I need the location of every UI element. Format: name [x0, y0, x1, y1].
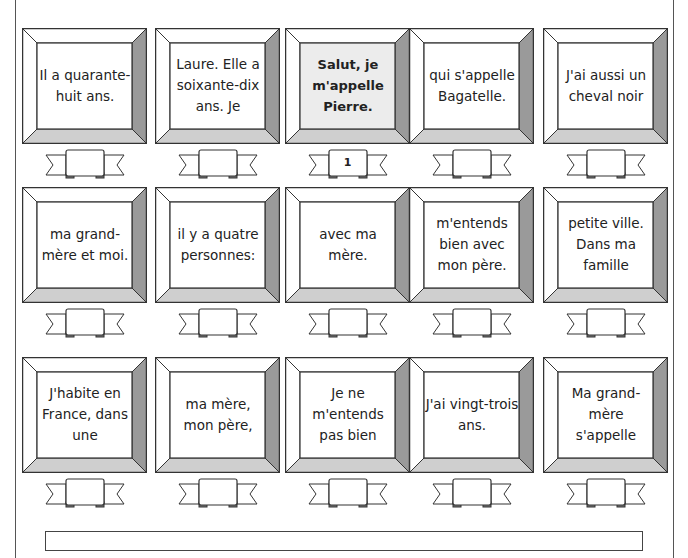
- number-ribbon[interactable]: [565, 478, 647, 510]
- sentence-card[interactable]: petite ville. Dans ma famille: [543, 187, 668, 303]
- ribbon-banner-icon: [177, 308, 259, 340]
- ribbon-number: 1: [307, 153, 389, 173]
- card-text: Laure. Elle a soixante-dix ans. Je: [171, 43, 265, 128]
- card-text: Salut, je m'appelle Pierre.: [301, 43, 395, 128]
- card-text: J'habite en France, dans une: [38, 372, 132, 457]
- ribbon-banner-icon: [431, 308, 513, 340]
- sentence-card[interactable]: ma mère, mon père,: [155, 357, 280, 473]
- card-text: Ma grand-mère s'appelle: [559, 372, 653, 457]
- ribbon-banner-icon: [431, 478, 513, 510]
- number-ribbon[interactable]: [431, 308, 513, 340]
- sentence-card[interactable]: J'habite en France, dans une: [22, 357, 147, 473]
- card-text: m'entends bien avec mon père.: [425, 202, 519, 287]
- card-text: qui s'appelle Bagatelle.: [425, 43, 519, 128]
- number-ribbon[interactable]: [565, 308, 647, 340]
- ribbon-banner-icon: [44, 478, 126, 510]
- sentence-card[interactable]: avec ma mère.: [285, 187, 410, 303]
- sentence-card[interactable]: ma grand-mère et moi.: [22, 187, 147, 303]
- sentence-card[interactable]: m'entends bien avec mon père.: [409, 187, 534, 303]
- ribbon-banner-icon: [44, 308, 126, 340]
- answer-box[interactable]: [45, 531, 643, 551]
- card-text: petite ville. Dans ma famille: [559, 202, 653, 287]
- ribbon-banner-icon: [431, 149, 513, 181]
- number-ribbon[interactable]: [177, 149, 259, 181]
- ribbon-banner-icon: [565, 308, 647, 340]
- number-ribbon[interactable]: [307, 308, 389, 340]
- card-text: avec ma mère.: [301, 202, 395, 287]
- number-ribbon[interactable]: [565, 149, 647, 181]
- number-ribbon[interactable]: [177, 308, 259, 340]
- number-ribbon[interactable]: [431, 149, 513, 181]
- card-text: il y a quatre personnes:: [171, 202, 265, 287]
- number-ribbon[interactable]: [44, 149, 126, 181]
- card-text: ma mère, mon père,: [171, 372, 265, 457]
- card-text: J'ai aussi un cheval noir: [559, 43, 653, 128]
- sentence-card[interactable]: il y a quatre personnes:: [155, 187, 280, 303]
- number-ribbon[interactable]: [431, 478, 513, 510]
- card-text: Je ne m'entends pas bien: [301, 372, 395, 457]
- ribbon-banner-icon: [177, 149, 259, 181]
- sentence-card[interactable]: Je ne m'entends pas bien: [285, 357, 410, 473]
- card-text: ma grand-mère et moi.: [38, 202, 132, 287]
- sentence-card[interactable]: Ma grand-mère s'appelle: [543, 357, 668, 473]
- ribbon-banner-icon: [307, 308, 389, 340]
- number-ribbon[interactable]: [44, 478, 126, 510]
- card-text: Il a quarante-huit ans.: [38, 43, 132, 128]
- ribbon-banner-icon: [177, 478, 259, 510]
- ribbon-banner-icon: [565, 478, 647, 510]
- sentence-card[interactable]: Laure. Elle a soixante-dix ans. Je: [155, 28, 280, 144]
- number-ribbon[interactable]: 1: [307, 149, 389, 181]
- sentence-card[interactable]: J'ai aussi un cheval noir: [543, 28, 668, 144]
- sentence-card[interactable]: Il a quarante-huit ans.: [22, 28, 147, 144]
- number-ribbon[interactable]: [307, 478, 389, 510]
- card-text: J'ai vingt-trois ans.: [425, 372, 519, 457]
- ribbon-banner-icon: [307, 478, 389, 510]
- ribbon-banner-icon: [44, 149, 126, 181]
- number-ribbon[interactable]: [177, 478, 259, 510]
- sentence-card[interactable]: Salut, je m'appelle Pierre.: [285, 28, 410, 144]
- sentence-card[interactable]: qui s'appelle Bagatelle.: [409, 28, 534, 144]
- sentence-card[interactable]: J'ai vingt-trois ans.: [409, 357, 534, 473]
- ribbon-banner-icon: [565, 149, 647, 181]
- number-ribbon[interactable]: [44, 308, 126, 340]
